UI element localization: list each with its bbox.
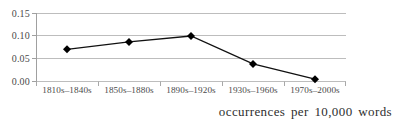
plot-svg xyxy=(0,0,398,98)
data-line-series-1 xyxy=(67,36,315,79)
data-markers xyxy=(63,32,319,83)
y-tick-label-005: 0.05 xyxy=(0,54,30,64)
line-chart: 0.15 0.10 0.05 0.00 1810s–1840s 1850s–18… xyxy=(0,0,398,98)
chart-figure: 0.15 0.10 0.05 0.00 1810s–1840s 1850s–18… xyxy=(0,0,398,127)
chart-caption: occurrences per 10,000 words xyxy=(219,104,392,119)
data-point-marker xyxy=(249,60,257,68)
y-tick-label-010: 0.10 xyxy=(0,31,30,41)
data-point-marker xyxy=(63,45,71,53)
data-point-marker xyxy=(125,38,133,46)
y-tick-label-015: 0.15 xyxy=(0,9,30,19)
x-tick-label-1970s-2000s: 1970s–2000s xyxy=(278,85,352,95)
y-tick-label-000: 0.00 xyxy=(0,77,30,87)
y-axis xyxy=(32,13,37,82)
data-point-marker xyxy=(187,32,195,40)
